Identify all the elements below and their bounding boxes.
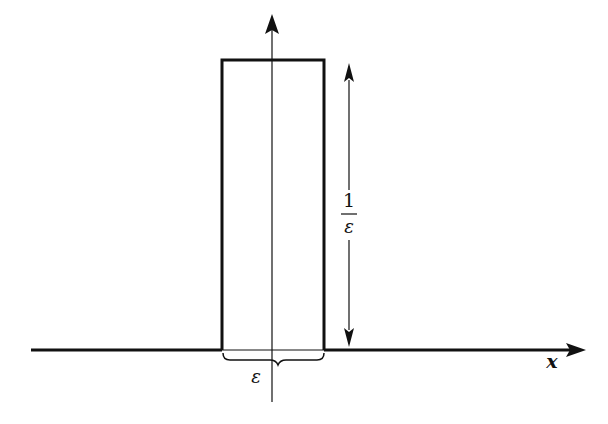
width-brace bbox=[223, 353, 324, 365]
height-label: 1 ε bbox=[341, 189, 357, 237]
pulse-rectangle bbox=[222, 60, 324, 350]
height-label-numerator: 1 bbox=[343, 189, 355, 211]
up-arrow-icon bbox=[344, 63, 354, 82]
height-label-denominator: ε bbox=[344, 216, 354, 237]
down-arrow-icon bbox=[344, 328, 354, 347]
x-axis-label: x bbox=[545, 350, 558, 372]
x-axis bbox=[31, 343, 586, 357]
width-label: ε bbox=[251, 366, 261, 387]
pulse-diagram: 1 ε ε x bbox=[0, 0, 608, 424]
y-axis bbox=[265, 14, 279, 402]
